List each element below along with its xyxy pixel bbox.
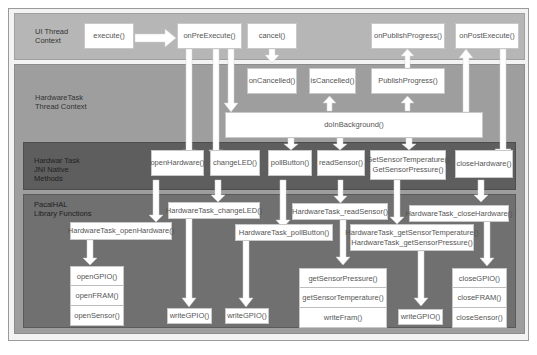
jni-read-sensor-box: readSensor() — [317, 150, 365, 176]
close-fram-cell: closeFRAM() — [453, 288, 506, 307]
open-gpio-cell: openGPIO() — [71, 267, 123, 286]
open-functions-stack: openGPIO() openFRAM() openSensor() — [70, 266, 124, 326]
lib-open-hardware-box: HardwareTask_openHardware() — [70, 222, 172, 240]
do-in-background-box: doInBackground() — [225, 112, 483, 138]
is-cancelled-box: isCancelled() — [309, 68, 356, 94]
close-functions-stack: closeGPIO() closeFRAM() closeSensor() — [452, 268, 507, 328]
open-sensor-cell: openSensor() — [71, 306, 123, 325]
jni-open-hardware-box: openHardware() — [151, 150, 204, 176]
close-gpio-cell: closeGPIO() — [453, 269, 506, 288]
publish-progress-box: PublishProgress() — [371, 68, 445, 94]
on-pre-execute-box: onPreExecute() — [177, 23, 242, 49]
on-cancelled-box: onCancelled() — [247, 68, 297, 94]
close-sensor-cell: closeSensor() — [453, 308, 506, 327]
on-post-execute-box: onPostExecute() — [455, 23, 519, 49]
lib-read-sensor-box: HardwareTask_readSensor() — [292, 203, 388, 220]
lib-change-led-box: HardwareTask_changeLED() — [168, 202, 260, 219]
architecture-diagram: UI Thread Context HardwareTask Thread Co… — [0, 0, 537, 355]
execute-box: execute() — [84, 23, 134, 49]
write-fram-cell: writeFram() — [300, 308, 386, 327]
jni-change-led-box: changeLED() — [210, 150, 260, 176]
jni-poll-button-box: pollButton() — [268, 150, 312, 176]
write-gpio-box-2: writeGPIO() — [225, 308, 269, 324]
open-fram-cell: openFRAM() — [71, 286, 123, 305]
write-gpio-box-1: writeGPIO() — [167, 308, 212, 324]
lib-get-sensor-box: HardwareTask_getSensorTemperature() Hard… — [350, 224, 474, 251]
read-functions-stack: getSensorPressure() getSensorTemperature… — [299, 268, 387, 328]
get-sensor-pressure-cell: getSensorPressure() — [300, 269, 386, 288]
get-sensor-temperature-cell: getSensorTemperature() — [300, 288, 386, 307]
lib-close-hardware-box: HardwareTask_closeHardware() — [409, 205, 509, 222]
jni-close-hardware-box: closeHardware() — [455, 150, 513, 178]
lib-poll-button-box: HardwareTask_pollButton() — [235, 224, 333, 241]
jni-get-sensor-box: GetSensorTemperature() GetSensorPressure… — [370, 150, 446, 180]
cancel-box: cancel() — [247, 23, 297, 49]
write-gpio-box-3: writeGPIO() — [398, 309, 443, 325]
on-publish-progress-box: onPublishProgress() — [371, 23, 445, 49]
